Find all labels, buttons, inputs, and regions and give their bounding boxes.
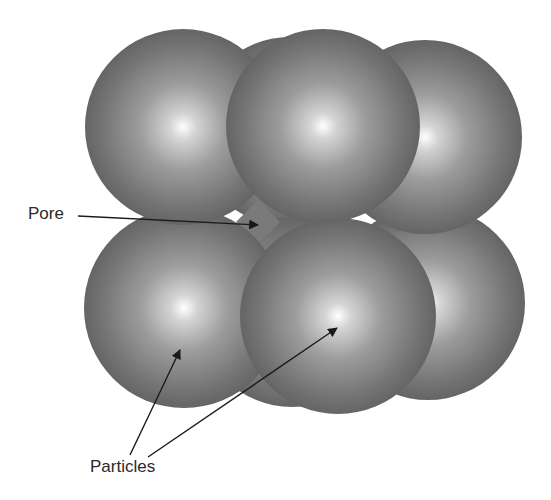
- pore-label: Pore: [28, 204, 64, 224]
- particle-sphere-top-middle: [226, 29, 420, 223]
- particle-packing-diagram: [0, 0, 551, 500]
- particle-sphere-bottom-middle: [240, 218, 436, 414]
- particles-group: [84, 29, 525, 414]
- particles-label: Particles: [90, 457, 155, 477]
